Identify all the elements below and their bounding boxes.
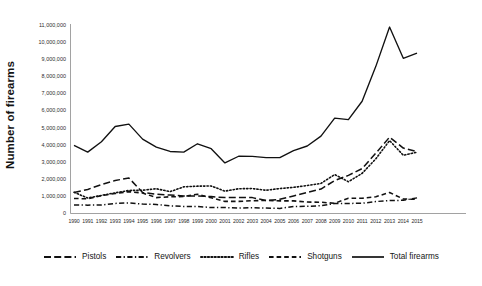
- x-tick-label: 1993: [108, 218, 122, 224]
- legend-swatch-dash-dot-icon: [115, 253, 149, 261]
- x-tick-label: 2004: [259, 218, 273, 224]
- x-tick-label: 1999: [190, 218, 204, 224]
- x-tick-label: 1998: [177, 218, 191, 224]
- legend-swatch-dash-icon: [268, 253, 302, 261]
- x-tick-label: 2006: [287, 218, 301, 224]
- legend-label: Pistols: [82, 252, 106, 261]
- x-tick-label: 2015: [410, 218, 424, 224]
- x-tick-label: 1997: [163, 218, 177, 224]
- legend-item-pistols[interactable]: Pistols: [43, 252, 106, 261]
- x-tick-label: 2008: [314, 218, 328, 224]
- legend-swatch-solid-icon: [351, 253, 385, 261]
- firearms-line-chart: Number of firearms 01,000,0002,000,0003,…: [0, 0, 482, 286]
- chart-legend: PistolsRevolversRiflesShotgunsTotal fire…: [0, 252, 482, 261]
- x-tick-label: 1990: [67, 218, 81, 224]
- legend-item-total-firearms[interactable]: Total firearms: [351, 252, 439, 261]
- x-tick-label: 2012: [369, 218, 383, 224]
- x-tick-label: 2003: [245, 218, 259, 224]
- legend-swatch-long-dash-icon: [43, 253, 77, 261]
- legend-label: Shotguns: [307, 252, 342, 261]
- x-tick-label: 2009: [328, 218, 342, 224]
- legend-swatch-dotted-icon: [200, 253, 234, 261]
- x-tick-label: 1994: [122, 218, 136, 224]
- legend-label: Rifles: [239, 252, 259, 261]
- x-tick-label: 2011: [355, 218, 369, 224]
- x-tick-label: 2002: [232, 218, 246, 224]
- x-tick-label: 1991: [81, 218, 95, 224]
- legend-item-revolvers[interactable]: Revolvers: [115, 252, 190, 261]
- legend-label: Revolvers: [154, 252, 190, 261]
- x-tick-label: 1992: [94, 218, 108, 224]
- x-tick-label: 2007: [300, 218, 314, 224]
- x-tick-label: 1996: [149, 218, 163, 224]
- legend-item-rifles[interactable]: Rifles: [200, 252, 259, 261]
- legend-item-shotguns[interactable]: Shotguns: [268, 252, 342, 261]
- x-tick-label: 2013: [383, 218, 397, 224]
- legend-label: Total firearms: [390, 252, 439, 261]
- x-tick-label: 2001: [218, 218, 232, 224]
- x-tick-label: 2005: [273, 218, 287, 224]
- x-tick-label: 2014: [396, 218, 410, 224]
- x-tick-label: 2000: [204, 218, 218, 224]
- x-tick-label: 2010: [341, 218, 355, 224]
- x-axis-tick-labels: 1990199119921993199419951996199719981999…: [0, 0, 482, 286]
- x-tick-label: 1995: [136, 218, 150, 224]
